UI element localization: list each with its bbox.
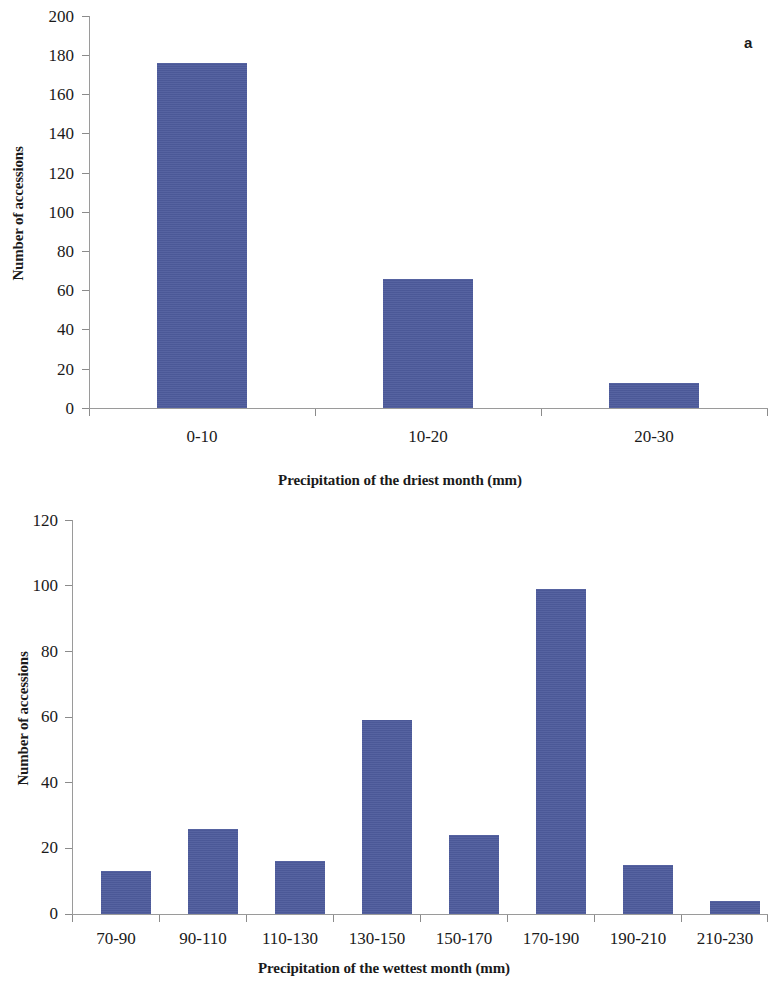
x-tick-mark <box>333 915 334 922</box>
x-axis-title-a: Precipitation of the driest month (mm) <box>220 472 580 489</box>
y-tick-label: 80 <box>0 643 58 660</box>
y-tick-mark <box>82 369 89 370</box>
panel-letter-a: a <box>744 35 752 50</box>
bar-130-150 <box>362 720 412 914</box>
x-tick-label: 10-20 <box>368 428 488 445</box>
y-tick-label: 100 <box>10 204 74 221</box>
y-tick-mark <box>82 329 89 330</box>
bar-190-210 <box>623 865 673 914</box>
x-tick-mark <box>594 915 595 922</box>
x-tick-mark <box>315 409 316 416</box>
x-axis-line-a <box>89 408 768 409</box>
x-tick-label: 70-90 <box>71 930 161 947</box>
x-tick-mark <box>159 915 160 922</box>
x-tick-label: 110-130 <box>245 930 335 947</box>
chart-panel-driest-month: a Number of accessions Precipitation of … <box>0 0 768 500</box>
bar-0-10 <box>157 63 247 408</box>
x-tick-mark <box>507 915 508 922</box>
bar-90-110 <box>188 829 238 914</box>
y-tick-label: 140 <box>10 125 74 142</box>
y-tick-label: 160 <box>10 86 74 103</box>
x-tick-label: 0-10 <box>142 428 262 445</box>
y-tick-mark <box>82 133 89 134</box>
y-tick-label: 200 <box>10 8 74 25</box>
x-tick-label: 90-110 <box>158 930 248 947</box>
y-tick-label: 20 <box>0 839 58 856</box>
y-tick-label: 180 <box>10 47 74 64</box>
x-tick-label: 210-230 <box>680 930 768 947</box>
y-tick-label: 80 <box>10 243 74 260</box>
y-tick-label: 60 <box>10 282 74 299</box>
x-tick-mark <box>89 409 90 416</box>
bar-70-90 <box>101 871 151 914</box>
y-tick-mark <box>65 782 72 783</box>
y-tick-label: 0 <box>0 905 58 922</box>
y-tick-mark <box>65 848 72 849</box>
x-tick-label: 170-190 <box>506 930 596 947</box>
x-axis-title-b: Precipitation of the wettest month (mm) <box>184 960 584 977</box>
y-tick-label: 20 <box>10 361 74 378</box>
y-axis-line-b <box>72 520 73 915</box>
y-tick-mark <box>65 651 72 652</box>
y-tick-mark <box>82 408 89 409</box>
y-tick-mark <box>65 717 72 718</box>
y-tick-mark <box>82 55 89 56</box>
bar-210-230 <box>710 901 760 914</box>
chart-panel-wettest-month: Number of accessions Precipitation of th… <box>0 495 768 993</box>
bar-20-30 <box>609 383 699 408</box>
y-tick-label: 40 <box>0 774 58 791</box>
y-tick-mark <box>65 914 72 915</box>
y-tick-mark <box>82 251 89 252</box>
bar-10-20 <box>383 279 473 408</box>
x-tick-label: 150-170 <box>419 930 509 947</box>
y-tick-label: 0 <box>10 400 74 417</box>
figure-root: a Number of accessions Precipitation of … <box>0 0 768 993</box>
x-tick-mark <box>541 409 542 416</box>
y-tick-label: 60 <box>0 708 58 725</box>
bar-110-130 <box>275 861 325 914</box>
bar-150-170 <box>449 835 499 914</box>
y-tick-mark <box>82 94 89 95</box>
y-tick-mark <box>82 173 89 174</box>
x-tick-label: 130-150 <box>332 930 422 947</box>
y-tick-mark <box>65 520 72 521</box>
y-tick-mark <box>82 290 89 291</box>
y-tick-label: 120 <box>10 165 74 182</box>
y-tick-label: 40 <box>10 321 74 338</box>
y-axis-line-a <box>89 16 90 409</box>
y-tick-label: 100 <box>0 577 58 594</box>
x-tick-mark <box>72 915 73 922</box>
y-tick-mark <box>65 585 72 586</box>
y-tick-mark <box>82 212 89 213</box>
y-tick-label: 120 <box>0 512 58 529</box>
x-tick-mark <box>420 915 421 922</box>
x-tick-mark <box>246 915 247 922</box>
x-tick-label: 20-30 <box>594 428 714 445</box>
x-tick-mark <box>681 915 682 922</box>
bar-170-190 <box>536 589 586 914</box>
x-tick-label: 190-210 <box>593 930 683 947</box>
y-tick-mark <box>82 16 89 17</box>
